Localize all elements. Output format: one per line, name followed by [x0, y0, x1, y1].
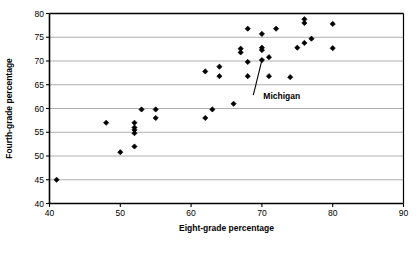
y-axis-ticks: 404550556065707580: [35, 9, 50, 209]
x-tick-label: 40: [45, 208, 55, 218]
x-tick-label: 80: [328, 208, 338, 218]
y-tick-label: 70: [35, 56, 45, 66]
y-tick-label: 45: [35, 175, 45, 185]
x-axis-title: Eight-grade percentage: [179, 223, 274, 233]
chart-canvas: 404550556065707580405060708090MichiganEi…: [0, 0, 419, 255]
x-tick-label: 90: [399, 208, 409, 218]
y-tick-label: 75: [35, 32, 45, 42]
y-tick-label: 80: [35, 9, 45, 19]
y-axis-title: Fourth-grade percentage: [4, 58, 14, 159]
x-tick-label: 50: [116, 208, 126, 218]
y-tick-label: 55: [35, 127, 45, 137]
annotation-label-michigan: Michigan: [263, 91, 300, 101]
scatter-chart: 404550556065707580405060708090MichiganEi…: [0, 0, 419, 255]
y-tick-label: 65: [35, 80, 45, 90]
x-tick-label: 60: [186, 208, 196, 218]
x-tick-label: 70: [257, 208, 267, 218]
y-tick-label: 50: [35, 151, 45, 161]
y-tick-label: 60: [35, 104, 45, 114]
y-tick-label: 40: [35, 199, 45, 209]
x-axis-ticks: 405060708090: [45, 204, 409, 219]
